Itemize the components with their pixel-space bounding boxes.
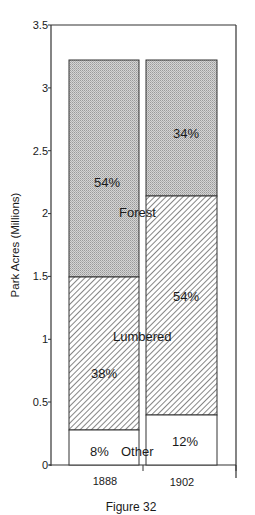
bar-1888-lumbered-pct: 38% — [91, 366, 117, 381]
y-tick-label: 2.5 — [33, 145, 48, 157]
x-ticks — [143, 465, 236, 471]
bar-1902-forest-pct: 34% — [173, 126, 199, 141]
y-tick-label: 2 — [42, 207, 48, 219]
figure-caption: Figure 32 — [106, 500, 157, 514]
stacked-bar-chart: 0 0.5 1 1.5 2 2.5 3 3.5 Park Acres (Mill… — [0, 0, 255, 515]
y-tick-label: 3.5 — [33, 19, 48, 31]
bar-1888-other-pct: 8% — [90, 444, 109, 459]
y-tick-label: 1 — [42, 333, 48, 345]
y-tick-label: 0.5 — [33, 396, 48, 408]
y-tick-label: 1.5 — [33, 270, 48, 282]
label-lumbered: Lumbered — [113, 329, 172, 344]
bar-1888-forest-pct: 54% — [94, 175, 120, 190]
bar-1902 — [146, 60, 217, 465]
x-tick-label-1888: 1888 — [93, 475, 117, 487]
bar-1888-forest — [69, 60, 139, 277]
bar-1888-lumbered — [69, 277, 139, 430]
label-forest: Forest — [119, 205, 156, 220]
bar-1902-lumbered-pct: 54% — [173, 289, 199, 304]
y-tick-label: 0 — [42, 459, 48, 471]
bar-1888 — [69, 60, 139, 465]
x-tick-label-1902: 1902 — [170, 476, 194, 488]
y-tick-label: 3 — [42, 82, 48, 94]
bar-1902-other-pct: 12% — [172, 434, 198, 449]
y-axis-title: Park Acres (Millions) — [9, 192, 21, 297]
label-other: Other — [121, 444, 154, 459]
bar-1902-lumbered — [146, 196, 217, 415]
